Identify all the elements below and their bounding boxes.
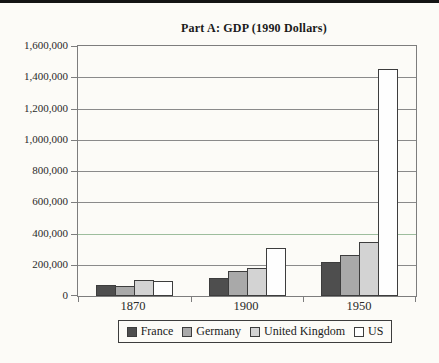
legend-label-france: France [141, 324, 174, 339]
legend-item-germany: Germany [182, 324, 241, 339]
bar-france-1950 [321, 262, 341, 296]
legend-swatch-us [354, 327, 364, 337]
legend: FranceGermanyUnited KingdomUS [118, 320, 393, 343]
bar-us-1900 [266, 248, 286, 296]
y-tick-label-800000: 800,000 [32, 164, 68, 176]
plot-area [77, 45, 417, 297]
gridline-1200000 [78, 109, 416, 110]
legend-swatch-germany [182, 327, 192, 337]
gridline-1000000 [78, 140, 416, 141]
y-tick-label-1400000: 1,400,000 [24, 70, 68, 82]
bar-us-1870 [153, 281, 173, 296]
x-category-label-1870: 1870 [93, 299, 173, 314]
y-tick-label-600000: 600,000 [32, 195, 68, 207]
bar-france-1900 [209, 278, 229, 296]
x-tick-2 [303, 296, 304, 302]
top-rule [0, 0, 439, 3]
bar-germany-1900 [228, 271, 248, 296]
gridline-800000 [78, 171, 416, 172]
x-category-label-1950: 1950 [319, 299, 399, 314]
bar-france-1870 [96, 285, 116, 296]
legend-label-united-kingdom: United Kingdom [264, 324, 345, 339]
x-category-label-1900: 1900 [206, 299, 286, 314]
y-tick-1000000 [71, 140, 78, 141]
bar-united-kingdom-1900 [247, 268, 267, 296]
gridline-1400000 [78, 77, 416, 78]
bar-us-1950 [378, 69, 398, 296]
y-tick-label-400000: 400,000 [32, 227, 68, 239]
y-tick-label-200000: 200,000 [32, 258, 68, 270]
y-tick-200000 [71, 265, 78, 266]
legend-label-germany: Germany [196, 324, 241, 339]
bar-united-kingdom-1950 [359, 242, 379, 296]
bar-united-kingdom-1870 [134, 280, 154, 296]
gridline-600000 [78, 202, 416, 203]
y-tick-1400000 [71, 77, 78, 78]
gridline-400000 [78, 234, 416, 235]
legend-label-us: US [368, 324, 383, 339]
y-tick-label-1000000: 1,000,000 [24, 133, 68, 145]
scanned-figure-page: Part A: GDP (1990 Dollars) 0200,000400,0… [0, 0, 439, 363]
y-tick-label-1600000: 1,600,000 [24, 39, 68, 51]
y-tick-label-0: 0 [63, 289, 69, 301]
x-tick-0 [78, 296, 79, 302]
y-tick-label-1200000: 1,200,000 [24, 102, 68, 114]
y-tick-0 [71, 295, 78, 296]
legend-swatch-france [127, 327, 137, 337]
y-tick-1200000 [71, 109, 78, 110]
chart-title: Part A: GDP (1990 Dollars) [85, 21, 423, 36]
legend-item-france: France [127, 324, 174, 339]
y-tick-600000 [71, 202, 78, 203]
bar-germany-1950 [340, 255, 360, 296]
legend-swatch-united-kingdom [250, 327, 260, 337]
legend-item-united-kingdom: United Kingdom [250, 324, 345, 339]
x-tick-1 [191, 296, 192, 302]
y-axis: 0200,000400,000600,000800,0001,000,0001,… [0, 45, 70, 295]
y-tick-800000 [71, 171, 78, 172]
y-tick-1600000 [71, 46, 78, 47]
y-tick-400000 [71, 234, 78, 235]
x-tick-3 [415, 296, 416, 302]
legend-row: FranceGermanyUnited KingdomUS [77, 320, 433, 343]
legend-item-us: US [354, 324, 383, 339]
bar-germany-1870 [115, 286, 135, 296]
